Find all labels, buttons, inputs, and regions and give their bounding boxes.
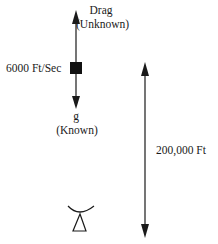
drag-label: Drag — [86, 4, 116, 17]
drag-status-label: (Unknown) — [76, 18, 128, 31]
gravity-label: g — [68, 110, 84, 123]
radar-dish-icon — [68, 206, 94, 231]
diagram-canvas — [0, 0, 218, 244]
gravity-status-label: (Known) — [54, 124, 100, 137]
altitude-arrow — [141, 62, 149, 238]
vehicle-body — [70, 62, 82, 74]
gravity-arrow — [72, 74, 80, 109]
altitude-label: 200,000 Ft — [156, 144, 216, 157]
velocity-label: 6000 Ft/Sec — [6, 62, 66, 75]
